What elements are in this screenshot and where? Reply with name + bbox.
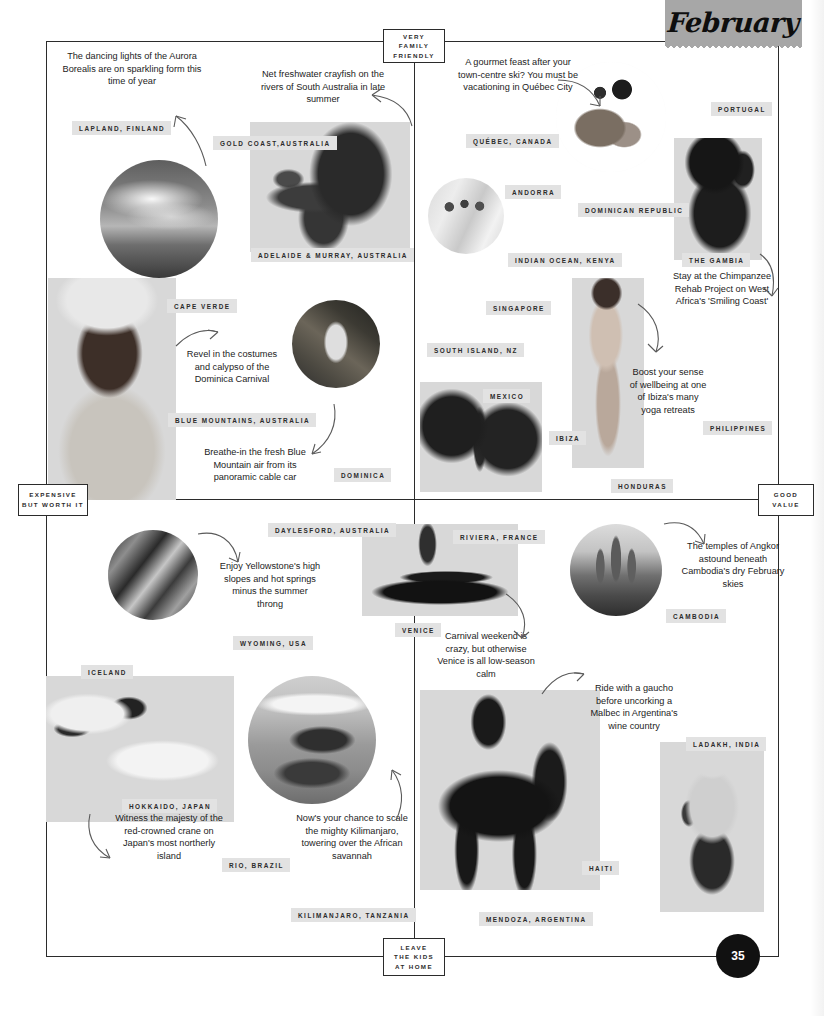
tag-gold-coast-australia[interactable]: GOLD COAST,AUSTRALIA: [213, 136, 337, 150]
axis-label-expensive-but-worth-it: EXPENSIVE BUT WORTH IT: [18, 484, 88, 516]
axis-label-leave-the-kids-at-home: LEAVE THE KIDS AT HOME: [383, 938, 445, 976]
tag-riviera-france[interactable]: RIVIERA, FRANCE: [453, 530, 545, 544]
blurb-ibiza-yoga: Boost your sense of wellbeing at one of …: [628, 366, 708, 417]
tag-kilimanjaro-tanzania[interactable]: KILIMANJARO, TANZANIA: [291, 908, 416, 922]
tag-mendoza-argentina[interactable]: MENDOZA, ARGENTINA: [479, 912, 593, 926]
blurb-yellowstone: Enjoy Yellowstone's high slopes and hot …: [218, 560, 322, 611]
tag-ibiza[interactable]: IBIZA: [549, 431, 586, 445]
tag-dominican-republic[interactable]: DOMINICAN REPUBLIC: [578, 203, 689, 217]
axis-bottom-line-2: THE KIDS: [394, 952, 434, 962]
blurb-gold-coast: Net freshwater crayfish on the rivers of…: [258, 68, 388, 106]
tag-haiti[interactable]: HAITI: [582, 861, 619, 875]
tag-andorra[interactable]: ANDORRA: [505, 185, 561, 199]
tag-dominica[interactable]: DOMINICA: [334, 468, 391, 482]
tag-hokkaido-japan[interactable]: HOKKAIDO, JAPAN: [122, 799, 217, 813]
axis-label-very-family-friendly: VERY FAMILY FRIENDLY: [383, 29, 445, 63]
tag-rio-brazil[interactable]: RIO, BRAZIL: [222, 858, 290, 872]
month-badge: February: [665, 0, 802, 46]
aurora-borealis-photo: [100, 160, 218, 278]
axis-right-line-2: VALUE: [772, 500, 800, 510]
travel-planner-page: The dancing lights of the Aurora Boreali…: [0, 0, 824, 1016]
tag-quebec-canada[interactable]: QUÉBEC, CANADA: [466, 134, 559, 148]
blurb-hokkaido: Witness the majesty of the red-crowned c…: [114, 812, 224, 863]
tag-iceland[interactable]: ICELAND: [81, 665, 133, 679]
canyon-photo: [108, 530, 198, 620]
axis-top-line-3: FRIENDLY: [393, 51, 435, 61]
dominica-cable-car-photo: [292, 300, 380, 388]
axis-top-line-1: VERY: [403, 32, 425, 42]
angkor-temple-photo: [570, 524, 662, 616]
blurb-kilimanjaro: Now's your chance to scale the mighty Ki…: [296, 812, 408, 863]
axis-label-good-value: GOOD VALUE: [758, 484, 814, 516]
blurb-mendoza: Ride with a gaucho before uncorking a Ma…: [584, 682, 684, 733]
tag-lapland-finland[interactable]: LAPLAND, FINLAND: [72, 121, 171, 135]
climber-photo: [660, 742, 764, 912]
axis-right-line-1: GOOD: [774, 490, 799, 500]
chimpanzee-photo: [674, 138, 762, 260]
axis-top-line-2: FAMILY: [399, 41, 430, 51]
tag-south-island-nz[interactable]: SOUTH ISLAND, NZ: [427, 343, 524, 357]
tag-blue-mountains-australia[interactable]: BLUE MOUNTAINS, AUSTRALIA: [168, 413, 316, 427]
axis-bottom-line-3: AT HOME: [395, 962, 433, 972]
carnival-dancer-photo: [48, 278, 176, 500]
kilimanjaro-elephants-photo: [248, 676, 376, 804]
axis-left-line-2: BUT WORTH IT: [22, 500, 84, 510]
blurb-angkor: The temples of Angkor astound beneath Ca…: [680, 540, 786, 591]
skiers-photo: [428, 178, 504, 254]
blurb-quebec: A gourmet feast after your town-centre s…: [458, 56, 578, 94]
horse-rider-photo: [420, 690, 600, 890]
tag-mexico[interactable]: MEXICO: [483, 389, 530, 403]
tag-wyoming-usa[interactable]: WYOMING, USA: [233, 636, 313, 650]
axis-left-line-1: EXPENSIVE: [29, 490, 77, 500]
tag-singapore[interactable]: SINGAPORE: [486, 301, 551, 315]
tag-venice[interactable]: VENICE: [395, 623, 441, 637]
page-number-badge: 35: [716, 934, 760, 978]
axis-bottom-line-1: LEAVE: [400, 943, 427, 953]
tag-cape-verde[interactable]: CAPE VERDE: [167, 299, 237, 313]
tag-indian-ocean-kenya[interactable]: INDIAN OCEAN, KENYA: [508, 253, 622, 267]
month-title: February: [663, 0, 803, 46]
tag-daylesford-australia[interactable]: DAYLESFORD, AUSTRALIA: [268, 523, 396, 537]
blurb-gambia: Stay at the Chimpanzee Rehab Project on …: [670, 270, 774, 308]
tag-cambodia[interactable]: CAMBODIA: [666, 609, 726, 623]
tag-philippines[interactable]: PHILIPPINES: [703, 421, 772, 435]
tag-portugal[interactable]: PORTUGAL: [711, 102, 772, 116]
tag-ladakh-india[interactable]: LADAKH, INDIA: [686, 737, 766, 751]
tag-adelaide-murray-australia[interactable]: ADELAIDE & MURRAY, AUSTRALIA: [251, 248, 414, 262]
blurb-dominica-carnival: Revel in the costumes and calypso of the…: [178, 348, 286, 386]
blurb-blue-mountains: Breathe-in the fresh Blue Mountain air f…: [196, 446, 314, 484]
badge-scallop-edge: [665, 45, 802, 51]
blurb-lapland: The dancing lights of the Aurora Boreali…: [62, 50, 202, 88]
blurb-venice: Carnival weekend is crazy, but otherwise…: [432, 630, 540, 681]
tag-the-gambia[interactable]: THE GAMBIA: [682, 253, 750, 267]
tag-honduras[interactable]: HONDURAS: [611, 479, 673, 493]
